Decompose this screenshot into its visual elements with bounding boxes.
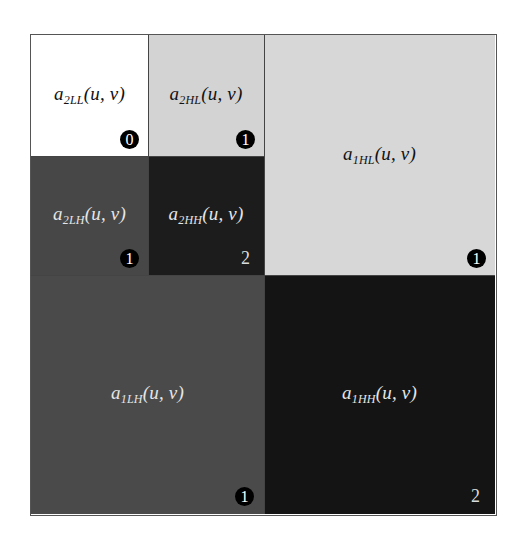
- badge-level-count: 1: [235, 487, 254, 506]
- badge-level-count: 0: [120, 130, 139, 149]
- subband-hl2: a2HL(u, v) 1: [148, 35, 264, 156]
- subband-hl1: a1HL(u, v) 1: [264, 35, 495, 275]
- subband-lh2-label: a2LH(u, v): [53, 203, 126, 228]
- subband-hh2: a2HH(u, v) 2: [148, 156, 264, 275]
- divider-horizontal-inner: [31, 156, 264, 157]
- subband-lh1-label: a1LH(u, v): [111, 382, 184, 407]
- subband-lh2: a2LH(u, v) 1: [31, 156, 148, 275]
- badge-level-count: 1: [120, 249, 139, 268]
- divider-vertical-inner: [148, 35, 149, 275]
- badge-level-count: 2: [466, 487, 485, 506]
- badge-level-count: 1: [467, 249, 486, 268]
- subband-ll2: a2LL(u, v) 0: [31, 35, 148, 156]
- subband-lh1: a1LH(u, v) 1: [31, 275, 264, 514]
- badge-level-count: 2: [236, 249, 255, 268]
- badge-level-count: 1: [236, 130, 255, 149]
- subband-hh1: a1HH(u, v) 2: [264, 275, 495, 514]
- subband-hh2-label: a2HH(u, v): [169, 203, 244, 228]
- subband-hl2-label: a2HL(u, v): [170, 83, 243, 108]
- subband-ll2-label: a2LL(u, v): [54, 83, 125, 108]
- wavelet-subband-diagram: a2LL(u, v) 0 a2HL(u, v) 1 a2LH(u, v) 1 a…: [30, 34, 497, 516]
- subband-hh1-label: a1HH(u, v): [342, 382, 417, 407]
- divider-horizontal-main: [31, 275, 495, 276]
- subband-hl1-label: a1HL(u, v): [343, 143, 416, 168]
